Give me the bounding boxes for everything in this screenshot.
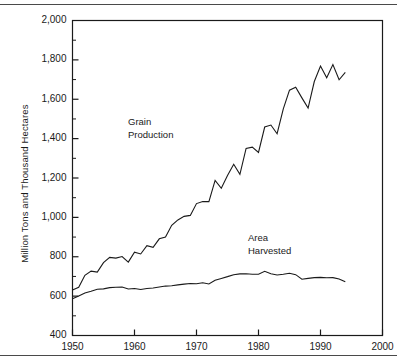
- y-tick-label-1200: 1,200: [7, 172, 67, 183]
- y-tick-label-600: 600: [7, 290, 67, 301]
- plot-border: [73, 21, 383, 336]
- series-line-area-harvested: [73, 271, 346, 298]
- y-tick-label-1600: 1,600: [7, 93, 67, 104]
- x-tick-label-2000: 2000: [358, 341, 397, 352]
- x-tick-label-1980: 1980: [234, 341, 284, 352]
- y-tick-label-400: 400: [7, 329, 67, 340]
- series-polylines: [73, 65, 346, 299]
- x-tick-label-1960: 1960: [110, 341, 160, 352]
- x-axis-tick-marks: [73, 330, 383, 336]
- area-harvested-label-line2: Harvested: [248, 245, 291, 258]
- area-harvested-label: Area Harvested: [248, 232, 291, 257]
- y-axis-tick-marks: [73, 40, 79, 316]
- chart-figure: Million Tons and Thousand Hectares 40060…: [0, 0, 397, 362]
- series-line-grain-production: [73, 65, 346, 290]
- x-tick-label-1950: 1950: [48, 341, 98, 352]
- y-tick-label-2000: 2,000: [7, 14, 67, 25]
- x-tick-label-1990: 1990: [296, 341, 346, 352]
- y-tick-label-1000: 1,000: [7, 211, 67, 222]
- y-tick-label-1800: 1,800: [7, 53, 67, 64]
- y-tick-label-1400: 1,400: [7, 132, 67, 143]
- grain-production-label: Grain Production: [128, 116, 173, 141]
- x-tick-label-1970: 1970: [172, 341, 222, 352]
- grain-production-label-line2: Production: [128, 129, 173, 142]
- axes-frame: [73, 21, 383, 336]
- area-harvested-label-line1: Area: [248, 232, 291, 245]
- y-tick-label-800: 800: [7, 250, 67, 261]
- grain-production-label-line1: Grain: [128, 116, 173, 129]
